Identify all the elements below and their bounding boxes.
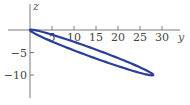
x-tick-label: 30 <box>155 31 169 44</box>
z-tick-label: −10 <box>4 69 27 82</box>
ellipse-chart: 51015202530−5−10 y z <box>0 0 190 105</box>
z-tick-label: −5 <box>11 47 27 60</box>
x-tick-label: 20 <box>111 31 125 44</box>
x-tick-label: 15 <box>89 31 103 44</box>
x-tick-label: 25 <box>133 31 147 44</box>
axes <box>8 4 180 98</box>
y-axis-label: y <box>177 31 185 44</box>
z-axis-label: z <box>32 0 39 13</box>
